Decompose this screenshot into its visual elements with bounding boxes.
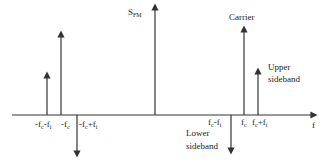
lower-sideband-label-line1: Lower <box>186 128 210 138</box>
tick-label-neg-fc-minus-fi: -fc-fi <box>35 119 52 130</box>
upper-sideband-label-line2: sideband <box>268 74 300 84</box>
tick-label-neg-fc: -fc <box>61 119 70 130</box>
tick-label-fc-minus-fi: fc-fi <box>208 117 222 128</box>
axis-label-f: f <box>312 120 315 130</box>
tick-label-fc-plus-fi: fc+fi <box>252 117 268 128</box>
carrier-label: Carrier <box>229 12 254 22</box>
lower-sideband-label-line2: sideband <box>186 141 218 151</box>
fm-spectrum-diagram: SFM Carrier Upper sideband Lower sideban… <box>0 0 325 163</box>
upper-sideband-label-line1: Upper <box>268 62 291 72</box>
tick-label-neg-fc-plus-fi: -fc+fi <box>79 119 98 130</box>
sfm-label: SFM <box>128 7 142 18</box>
tick-label-fc: fc <box>241 117 247 128</box>
